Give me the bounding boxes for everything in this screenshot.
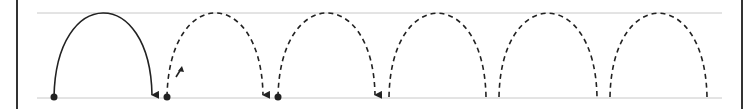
jump-arc-3 (275, 13, 376, 101)
jump-arc-1 (51, 13, 153, 101)
small-up-arrow-icon (176, 66, 184, 77)
number-line-jumps (0, 0, 747, 109)
jump-arc-4 (389, 13, 486, 97)
start-dot (275, 94, 282, 101)
jump-arcs (51, 13, 708, 101)
jump-arc-6 (610, 13, 707, 97)
start-dot (164, 94, 171, 101)
jump-arc-2 (164, 13, 264, 101)
start-dot (51, 94, 58, 101)
jump-arc-5 (499, 13, 597, 97)
jump-diagram (0, 0, 747, 109)
